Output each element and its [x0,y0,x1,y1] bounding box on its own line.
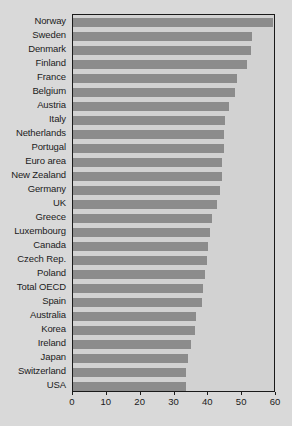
category-label: Greece [0,212,66,222]
bar-row [73,102,276,111]
category-label: Norway [0,16,66,26]
bar [73,32,252,41]
bar-row [73,368,276,377]
category-label: Australia [0,310,66,320]
bar-row [73,284,276,293]
bar-row [73,46,276,55]
x-tick-label: 30 [162,396,186,407]
category-label: USA [0,380,66,390]
bar [73,270,205,279]
bar-row [73,214,276,223]
bar [73,200,217,209]
x-tick-mark [275,392,276,395]
category-label: Austria [0,100,66,110]
category-label: Portugal [0,142,66,152]
category-label: Korea [0,324,66,334]
x-axis: 0102030405060 [72,392,275,416]
category-label: New Zealand [0,170,66,180]
bar-row [73,200,276,209]
bar [73,116,225,125]
category-label: Germany [0,184,66,194]
bar-row [73,74,276,83]
bar-row [73,340,276,349]
x-tick-label: 60 [263,396,287,407]
category-label: Total OECD [0,282,66,292]
bar [73,46,251,55]
bar-row [73,228,276,237]
bar [73,298,202,307]
category-label: Finland [0,58,66,68]
category-label: Canada [0,240,66,250]
bar [73,382,186,391]
x-tick-label: 50 [229,396,253,407]
x-tick-mark [174,392,175,395]
bar-row [73,172,276,181]
bar-row [73,242,276,251]
category-label: Luxembourg [0,226,66,236]
bar-row [73,256,276,265]
x-tick-label: 10 [94,396,118,407]
plot-area [72,14,275,392]
bar-row [73,60,276,69]
category-label: Italy [0,114,66,124]
bar-row [73,158,276,167]
bar [73,256,207,265]
category-label: Ireland [0,338,66,348]
bar-row [73,382,276,391]
category-label: Belgium [0,86,66,96]
bar-row [73,326,276,335]
bar-row [73,116,276,125]
bar-row [73,354,276,363]
chart-figure: NorwaySwedenDenmarkFinlandFranceBelgiumA… [0,0,292,426]
category-label: Poland [0,268,66,278]
bar-row [73,88,276,97]
category-label: France [0,72,66,82]
bar [73,312,196,321]
bar-series [73,15,274,391]
category-label: Denmark [0,44,66,54]
category-label: Japan [0,352,66,362]
bar [73,172,222,181]
x-tick-mark [106,392,107,395]
category-label: Netherlands [0,128,66,138]
bar [73,102,229,111]
category-label: Sweden [0,30,66,40]
bar [73,326,195,335]
x-tick-label: 0 [60,396,84,407]
bar-row [73,32,276,41]
category-label: Czech Rep. [0,254,66,264]
bar [73,214,212,223]
bar [73,18,273,27]
x-tick-label: 20 [128,396,152,407]
bar-row [73,144,276,153]
bar [73,144,224,153]
bar-row [73,18,276,27]
bar [73,60,247,69]
bar [73,130,224,139]
bar-row [73,186,276,195]
category-axis: NorwaySwedenDenmarkFinlandFranceBelgiumA… [0,14,69,392]
bar [73,284,203,293]
bar [73,186,220,195]
bar-row [73,312,276,321]
bar [73,158,222,167]
bar [73,242,208,251]
x-tick-mark [72,392,73,395]
bar [73,74,237,83]
bar [73,340,191,349]
category-label: Spain [0,296,66,306]
x-tick-mark [140,392,141,395]
x-tick-label: 40 [195,396,219,407]
x-tick-mark [207,392,208,395]
bar-row [73,270,276,279]
category-label: Euro area [0,156,66,166]
bar [73,354,188,363]
bar [73,368,186,377]
bar [73,88,235,97]
category-label: Switzerland [0,366,66,376]
x-tick-mark [241,392,242,395]
bar [73,228,210,237]
bar-row [73,130,276,139]
bar-row [73,298,276,307]
category-label: UK [0,198,66,208]
